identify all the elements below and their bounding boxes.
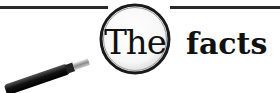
lens-text: The bbox=[101, 22, 169, 62]
facts-text: facts bbox=[186, 26, 267, 61]
the-facts-banner: The facts bbox=[0, 0, 280, 93]
